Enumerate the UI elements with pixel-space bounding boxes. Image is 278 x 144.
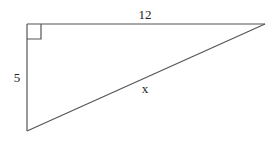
right-angle-marker (27, 24, 41, 39)
hypotenuse-line (27, 24, 265, 131)
left-side-label: 5 (14, 71, 21, 84)
right-triangle-diagram (0, 0, 278, 144)
top-side-label: 12 (139, 8, 152, 21)
hypotenuse-label: x (142, 82, 149, 95)
